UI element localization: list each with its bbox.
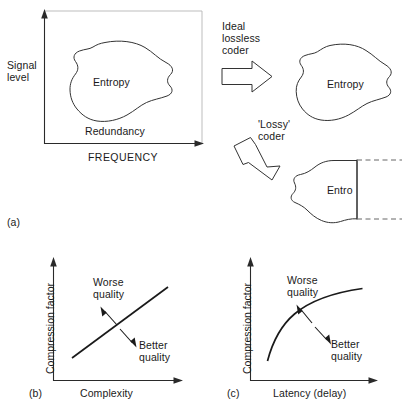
panel-a-entropy-label: Entropy (93, 77, 130, 89)
panel-b-worse-quality-label-line2: quality (93, 289, 124, 301)
panel-b-worse-quality-leader (105, 311, 118, 325)
panel-a-y-axis-arrowhead (41, 9, 48, 19)
panel-c-better-quality-label-line2: quality (331, 351, 362, 363)
panel-b-x-axis-arrowhead (174, 377, 184, 384)
figure-root: Signal level FREQUENCY Entropy Redundanc… (0, 0, 406, 411)
panel-c-y-axis-arrowhead (247, 257, 254, 267)
ideal-lossless-arrow-graphic (222, 61, 272, 92)
panel-b-x-axis-label: Complexity (80, 388, 133, 400)
panel-c-y-axis-label: Compression factor (241, 283, 253, 374)
diagonal-arrow-icon (234, 138, 280, 181)
lossy-coder-arrow-graphic (234, 138, 280, 181)
lossy-coder-caption-line2: coder (258, 131, 285, 143)
panel-a-x-axis-arrowhead (195, 140, 205, 147)
panel-b-y-axis-label: Compression factor (44, 283, 56, 374)
ideal-lossless-caption-line3: coder (222, 45, 249, 57)
panel-c-worse-quality-label-line2: quality (287, 287, 318, 299)
lossy-result-entropy-label: Entro (327, 185, 353, 197)
panel-b-better-quality-label-line2: quality (139, 352, 170, 364)
lossless-result-entropy-label: Entropy (327, 79, 364, 91)
panel-c-x-axis-arrowhead (369, 377, 379, 384)
panel-c-x-axis-label: Latency (delay) (273, 388, 346, 400)
panel-b-id-label: (b) (29, 388, 42, 400)
panel-b-better-quality-leader (120, 329, 133, 343)
panel-a-x-axis-label: FREQUENCY (88, 152, 158, 164)
panel-a-id-label: (a) (7, 217, 20, 229)
panel-a-redundancy-label: Redundancy (85, 126, 145, 138)
panel-c-id-label: (c) (227, 388, 240, 400)
right-arrow-icon (222, 61, 272, 92)
panel-b-y-axis-arrowhead (50, 257, 57, 267)
panel-a-y-axis-label-line2: level (7, 72, 29, 84)
